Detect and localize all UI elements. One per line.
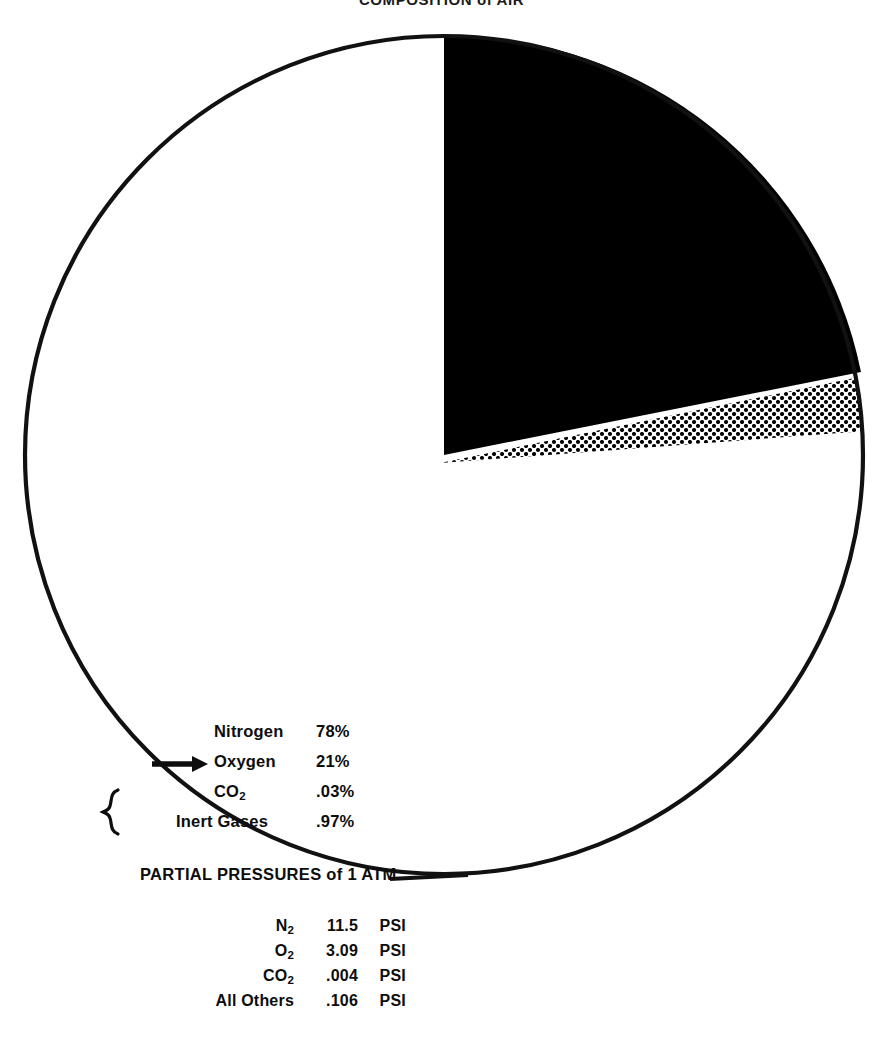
legend-value-co2: .03% [316,782,354,801]
legend-label-nitrogen: Nitrogen [214,722,310,741]
pp-species-o2: O2 [176,942,294,961]
legend-value-oxygen: 21% [316,752,350,771]
pp-value-o2: 3.09 [294,942,360,960]
pp-species-co2-main: CO [263,967,287,984]
partial-pressures-heading-of: of [326,865,342,883]
pie-chart-figure [0,0,883,1041]
pp-value-co2: .004 [294,967,360,985]
pp-species-o2-subscript: 2 [287,949,294,961]
chart-canvas: COMPOSITION of AIR [0,0,883,1041]
table-row: O2 3.09 PSI [176,942,436,967]
table-row: CO2 .004 PSI [176,967,436,992]
partial-pressures-table: N2 11.5 PSI O2 3.09 PSI CO2 .004 PSI All… [176,917,436,1017]
partial-pressures-leader-line [390,875,468,879]
legend-label-oxygen: Oxygen [214,752,310,771]
pp-species-n2-subscript: 2 [287,924,294,936]
pp-species-n2-main: N [276,917,288,934]
table-row: N2 11.5 PSI [176,917,436,942]
legend-row-inert-gases: Inert Gases .97% [176,812,444,842]
partial-pressures-heading-tail: 1 ATM. [343,865,402,883]
legend-value-nitrogen: 78% [316,722,350,741]
pp-species-all-others-main: All Others [216,992,294,1009]
pp-unit-o2: PSI [360,942,406,960]
legend-row-co2: CO2 .03% [214,782,444,812]
legend-label-inert-gases: Inert Gases [176,812,310,831]
legend-row-nitrogen: Nitrogen 78% [214,722,444,752]
table-row: All Others .106 PSI [176,992,436,1017]
legend-label-co2-subscript: 2 [239,790,246,802]
legend-row-oxygen: Oxygen 21% [214,752,444,782]
composition-legend: Nitrogen 78% Oxygen 21% CO2 .03% Inert G… [214,722,444,842]
pp-species-n2: N2 [176,917,294,936]
inert-gases-brace [103,790,118,834]
pp-species-o2-main: O [275,942,288,959]
pp-unit-n2: PSI [360,917,406,935]
pp-value-all-others: .106 [294,992,360,1010]
legend-label-co2: CO2 [214,782,310,802]
pp-species-co2: CO2 [176,967,294,986]
pp-species-all-others: All Others [176,992,294,1011]
pp-unit-co2: PSI [360,967,406,985]
partial-pressures-heading: PARTIAL PRESSURES of 1 ATM. [140,865,401,884]
pp-value-n2: 11.5 [294,917,360,935]
legend-value-inert-gases: .97% [316,812,354,831]
pp-unit-all-others: PSI [360,992,406,1010]
legend-label-co2-main: CO [214,782,239,800]
partial-pressures-heading-main: PARTIAL PRESSURES [140,865,326,883]
pp-species-co2-subscript: 2 [287,974,294,986]
